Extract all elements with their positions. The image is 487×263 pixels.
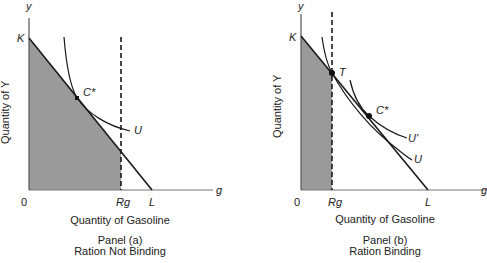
panel-b-label-c-star: C*: [376, 104, 388, 116]
panel-b-label-u-prime: U': [408, 132, 418, 144]
panel-a-point-c-star: [75, 96, 79, 100]
panel-a-x-axis-label: Quantity of Gasoline: [70, 214, 170, 226]
panel-b-indifference-curve-u: [322, 37, 412, 160]
panel-b-x-axis-symbol: g: [481, 184, 487, 196]
panel-a-subtitle: Ration Not Binding: [70, 245, 170, 257]
panel-a-label-l: L: [149, 196, 155, 208]
panel-b-point-c-star: [366, 113, 372, 119]
panel-a-label-k: K: [17, 32, 24, 44]
panel-a-label-u: U: [134, 124, 142, 136]
panel-b-x-axis-label: Quantity of Gasoline: [335, 213, 435, 225]
panel-a-y-axis-symbol: y: [26, 0, 32, 12]
panel-b-label-rg: Rg: [328, 196, 342, 208]
panel-b-feasible-region: [301, 36, 332, 190]
panel-a-y-axis-label: Quantity of Y: [0, 72, 11, 144]
panel-b-point-t: [329, 70, 335, 76]
panel-a-x-axis-symbol: g: [216, 184, 222, 196]
panel-b-label-l: L: [425, 196, 431, 208]
panel-b-graph: [301, 12, 486, 190]
panel-a-label-rg: Rg: [116, 196, 130, 208]
panel-b-origin-label: 0: [294, 196, 300, 208]
panel-a-feasible-region: [29, 38, 121, 190]
panel-b-label-k: K: [289, 31, 296, 43]
panel-a-origin-label: 0: [21, 196, 27, 208]
panel-b-y-axis-label: Quantity of Y: [271, 66, 283, 138]
panel-a-label-c-star: C*: [83, 86, 95, 98]
panel-b-subtitle: Ration Binding: [335, 245, 435, 257]
panel-b-label-u: U: [414, 153, 422, 165]
panel-b-label-t: T: [339, 66, 346, 78]
panel-b-y-axis-symbol: y: [298, 0, 304, 12]
panel-a-graph: [29, 18, 213, 190]
